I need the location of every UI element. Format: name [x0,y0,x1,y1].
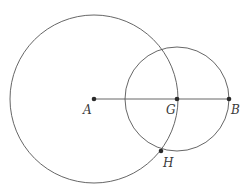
label-G: G [166,103,176,117]
label-H: H [162,156,174,170]
label-B: B [230,103,240,117]
point-G [175,97,180,102]
point-A [92,97,97,102]
point-H [159,149,164,154]
geometry-diagram: A G B H [0,0,250,193]
label-A: A [82,103,92,117]
point-B [227,97,232,102]
